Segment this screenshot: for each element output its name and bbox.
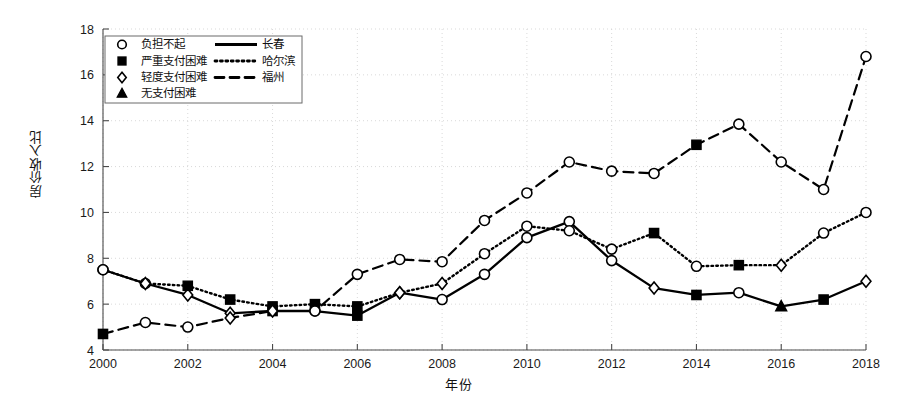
y-axis-title: 房价收入比	[26, 130, 48, 198]
svg-text:16: 16	[80, 68, 94, 82]
svg-text:8: 8	[87, 252, 94, 266]
svg-text:2016: 2016	[767, 357, 795, 371]
svg-text:无支付困难: 无支付困难	[141, 87, 196, 99]
svg-text:严重支付困难: 严重支付困难	[141, 54, 207, 67]
svg-text:6: 6	[87, 298, 94, 312]
chart-legend: 负担不起严重支付困难轻度支付困难无支付困难长春哈尔滨福州	[105, 36, 302, 103]
svg-text:18: 18	[80, 23, 94, 37]
x-axis-title: 年份	[445, 374, 472, 393]
svg-text:轻度支付困难: 轻度支付困难	[141, 70, 207, 83]
series-0	[98, 217, 871, 321]
svg-text:2010: 2010	[513, 357, 541, 371]
svg-text:2008: 2008	[428, 357, 456, 371]
svg-text:福州: 福州	[262, 70, 284, 83]
svg-text:负担不起: 负担不起	[141, 37, 186, 50]
svg-text:2006: 2006	[343, 357, 371, 371]
chart-plot-area: 4681012141618200020022004200620082010201…	[0, 0, 907, 404]
svg-text:14: 14	[80, 114, 94, 128]
svg-text:2000: 2000	[89, 357, 117, 371]
svg-text:2002: 2002	[174, 357, 202, 371]
svg-text:长春: 长春	[262, 38, 285, 50]
svg-text:哈尔滨: 哈尔滨	[262, 54, 296, 67]
svg-text:2018: 2018	[852, 357, 880, 371]
svg-text:10: 10	[80, 206, 94, 220]
chart-figure: 4681012141618200020022004200620082010201…	[0, 0, 907, 404]
svg-text:4: 4	[87, 344, 94, 358]
svg-text:12: 12	[80, 160, 94, 174]
svg-text:2014: 2014	[683, 357, 711, 371]
svg-text:2004: 2004	[259, 357, 287, 371]
svg-text:2012: 2012	[598, 357, 626, 371]
